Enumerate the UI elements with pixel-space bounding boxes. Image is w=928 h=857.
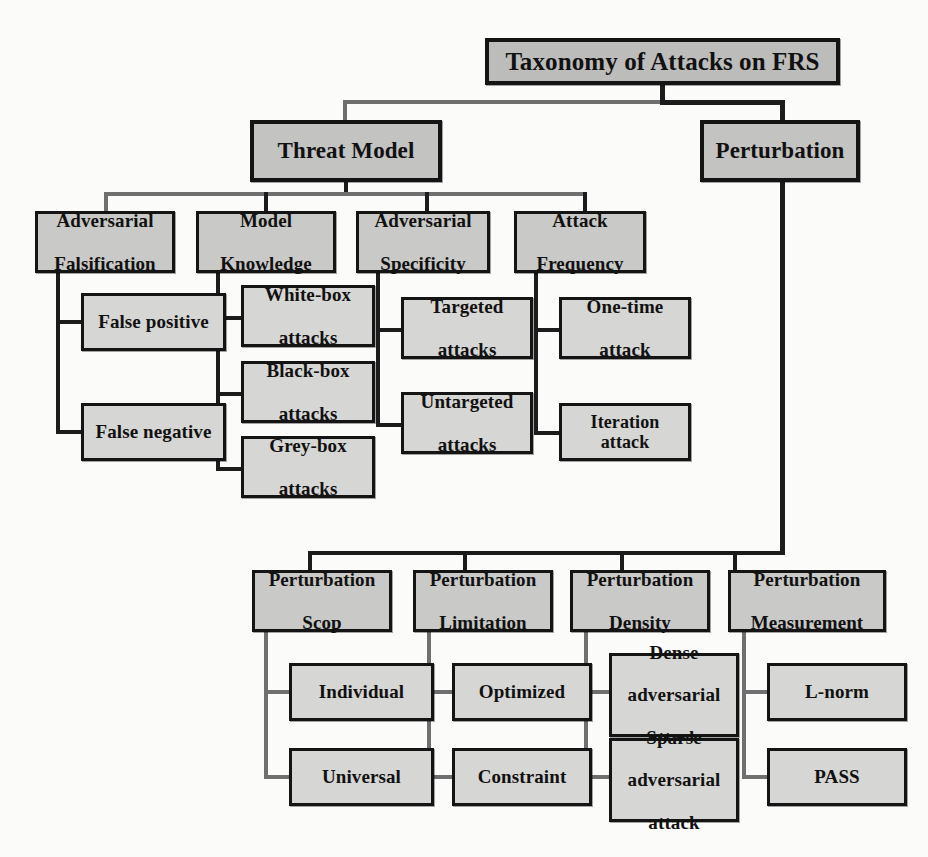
connector-as-to-untargeted xyxy=(376,423,402,427)
node-label-line1: Perturbation xyxy=(747,569,868,590)
node-grey-box-attacks[interactable]: Grey-box attacks xyxy=(241,436,375,498)
node-constraint[interactable]: Constraint xyxy=(452,748,592,806)
node-adversarial-falsification[interactable]: Adversarial Falsification xyxy=(35,211,175,273)
node-label: Perturbation Density xyxy=(579,569,702,633)
node-label-line1: White-box xyxy=(261,284,355,305)
node-label: Untargeted attacks xyxy=(413,391,522,455)
connector-mk-to-black xyxy=(216,392,242,396)
connector-as-to-targeted xyxy=(376,328,402,332)
node-false-negative[interactable]: False negative xyxy=(81,403,226,461)
node-perturbation[interactable]: Perturbation xyxy=(700,120,860,182)
node-label-line1: Perturbation xyxy=(265,569,380,590)
node-l-norm[interactable]: L-norm xyxy=(767,663,907,721)
connector-ps-to-individual xyxy=(264,690,290,694)
node-label: Perturbation Scop xyxy=(261,569,384,633)
node-label: L-norm xyxy=(801,681,873,702)
connector-pert-drop-4 xyxy=(733,551,737,571)
connector-root-bar-right xyxy=(660,100,785,105)
node-black-box-attacks[interactable]: Black-box attacks xyxy=(241,361,375,423)
node-attack-frequency[interactable]: Attack Frequency xyxy=(514,211,646,273)
node-label: Individual xyxy=(315,681,409,702)
connector-threat-drop-1 xyxy=(104,192,108,212)
connector-perturbation-stem xyxy=(780,182,785,552)
node-white-box-attacks[interactable]: White-box attacks xyxy=(241,285,375,347)
connector-pert-drop-1 xyxy=(308,551,312,571)
connector-threat-drop-2 xyxy=(264,192,268,212)
node-label: Taxonomy of Attacks on FRS xyxy=(501,48,823,76)
connector-as-spine xyxy=(376,271,380,427)
node-perturbation-measurement[interactable]: Perturbation Measurement xyxy=(728,570,886,632)
node-label-line2: attacks xyxy=(417,434,518,455)
node-label-line1: Model xyxy=(216,210,316,231)
node-label-line2: attacks xyxy=(262,403,353,424)
node-label-line2: Limitation xyxy=(426,612,541,633)
taxonomy-diagram: Taxonomy of Attacks on FRS Threat Model … xyxy=(0,0,928,857)
node-label: Constraint xyxy=(474,766,571,787)
node-label-line1: Perturbation xyxy=(426,569,541,590)
node-false-positive[interactable]: False positive xyxy=(81,293,226,351)
node-label-line1: Perturbation xyxy=(583,569,698,590)
node-label-line1: Sparse xyxy=(624,727,725,748)
connector-threat-drop-4 xyxy=(583,192,587,212)
node-universal[interactable]: Universal xyxy=(289,748,434,806)
node-label-line2: attack xyxy=(583,339,668,360)
node-individual[interactable]: Individual xyxy=(289,663,434,721)
connector-pert-drop-2 xyxy=(463,551,467,571)
connector-pert-drop-3 xyxy=(620,551,624,571)
node-label-line1: Black-box xyxy=(262,360,353,381)
node-label-line3: attack xyxy=(624,812,725,833)
node-label-line1: Grey-box xyxy=(265,435,351,456)
node-label-line2: Frequency xyxy=(532,253,627,274)
node-perturbation-density[interactable]: Perturbation Density xyxy=(570,570,710,632)
node-label: Perturbation xyxy=(712,138,849,164)
node-optimized[interactable]: Optimized xyxy=(452,663,592,721)
node-label-line1: Adversarial xyxy=(50,210,160,231)
node-label-line1: Attack xyxy=(532,210,627,231)
node-iteration-attack[interactable]: Iteration attack xyxy=(559,403,691,461)
connector-root-bar xyxy=(343,100,665,104)
node-root-taxonomy[interactable]: Taxonomy of Attacks on FRS xyxy=(485,38,840,85)
node-model-knowledge[interactable]: Model Knowledge xyxy=(196,211,336,273)
node-label-line1: One-time xyxy=(583,296,668,317)
node-sparse-adversarial-attack[interactable]: Sparse adversarial attack xyxy=(609,738,739,822)
connector-to-perturbation xyxy=(780,100,785,122)
connector-perturbation-bar xyxy=(308,551,785,555)
connector-threat-model-bar xyxy=(104,192,586,196)
node-label-line2: attacks xyxy=(427,339,508,360)
node-label-line1: Dense xyxy=(624,642,725,663)
node-one-time-attack[interactable]: One-time attack xyxy=(559,297,691,359)
node-label: Targeted attacks xyxy=(423,296,512,360)
connector-pm-to-pass xyxy=(742,775,768,779)
node-untargeted-attacks[interactable]: Untargeted attacks xyxy=(401,392,533,454)
node-label: Model Knowledge xyxy=(212,210,320,274)
node-label: Black-box attacks xyxy=(258,360,357,424)
node-label-line2: attacks xyxy=(265,478,351,499)
node-adversarial-specificity[interactable]: Adversarial Specificity xyxy=(356,211,490,273)
connector-pm-spine xyxy=(742,630,746,778)
node-label-line1: Untargeted xyxy=(417,391,518,412)
node-label-line2: Scop xyxy=(265,612,380,633)
node-label-line2: Knowledge xyxy=(216,253,316,274)
connector-af2-to-iteration xyxy=(534,431,560,435)
node-perturbation-scop[interactable]: Perturbation Scop xyxy=(252,570,392,632)
connector-af-to-fn xyxy=(56,430,82,434)
node-label: PASS xyxy=(810,766,863,787)
node-label-line2: Density xyxy=(583,612,698,633)
node-label: White-box attacks xyxy=(257,284,359,348)
node-threat-model[interactable]: Threat Model xyxy=(250,120,442,182)
node-label: Universal xyxy=(318,766,405,787)
node-label: Perturbation Measurement xyxy=(743,569,872,633)
node-label: Sparse adversarial attack xyxy=(620,727,729,833)
node-pass[interactable]: PASS xyxy=(767,748,907,806)
node-label-line2: Measurement xyxy=(747,612,868,633)
node-perturbation-limitation[interactable]: Perturbation Limitation xyxy=(413,570,553,632)
node-dense-adversarial-attack[interactable]: Dense adversarial attack xyxy=(609,653,739,737)
node-label: Optimized xyxy=(475,681,569,702)
node-label: False positive xyxy=(94,311,213,332)
node-label: Adversarial Specificity xyxy=(366,210,479,274)
connector-af2-spine xyxy=(534,271,538,435)
connector-threat-drop-3 xyxy=(425,192,429,212)
node-label-line2: attacks xyxy=(261,327,355,348)
node-label: Threat Model xyxy=(274,138,419,164)
node-targeted-attacks[interactable]: Targeted attacks xyxy=(401,297,533,359)
